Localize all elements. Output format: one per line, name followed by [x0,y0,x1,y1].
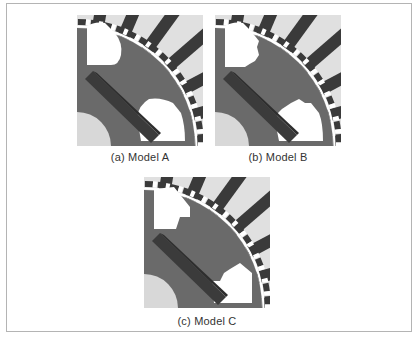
caption-model-a: (a) Model A [70,151,210,163]
motor-cross-section-a [77,15,203,146]
panel-model-b [215,15,341,146]
motor-cross-section-b [215,15,341,146]
caption-model-b: (b) Model B [208,151,348,163]
motor-cross-section-c [144,177,270,308]
panel-model-a [77,15,203,146]
caption-model-c: (c) Model C [137,315,277,327]
panel-model-c [144,177,270,308]
